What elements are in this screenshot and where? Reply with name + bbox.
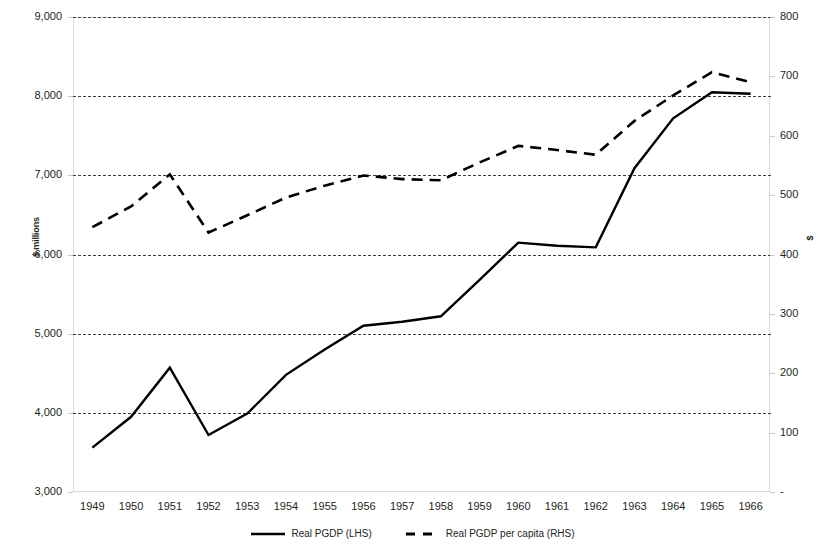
left-axis-tick-mark (68, 492, 73, 493)
x-axis-tick-label: 1953 (227, 500, 267, 512)
x-axis-tick-label: 1951 (150, 500, 190, 512)
left-axis-tick-label: 9,000 (34, 11, 62, 22)
x-axis-tick-label: 1960 (498, 500, 538, 512)
left-axis-title: $ millions (31, 197, 41, 277)
x-axis-tick-label: 1963 (614, 500, 654, 512)
left-axis-tick-label: 3,000 (34, 486, 62, 497)
right-axis-tick-mark (770, 314, 775, 315)
right-axis-tick-mark (770, 433, 775, 434)
right-axis-tick-mark (770, 195, 775, 196)
gridline (73, 413, 771, 414)
gridline (73, 175, 771, 176)
x-axis-tick-label: 1961 (537, 500, 577, 512)
chart-legend: Real PGDP (LHS) Real PGDP per capita (RH… (0, 528, 826, 539)
right-axis-title: $ (805, 198, 815, 278)
gridline (73, 96, 771, 97)
legend-item-real-pgdp[interactable]: Real PGDP (LHS) (251, 528, 371, 539)
right-axis-tick-label: 400 (780, 249, 798, 260)
left-axis-tick-label: 8,000 (34, 90, 62, 101)
left-axis-tick-mark (68, 255, 73, 256)
legend-item-real-pgdp-per-capita[interactable]: Real PGDP per capita (RHS) (406, 528, 575, 539)
x-axis-tick-label: 1959 (460, 500, 500, 512)
right-axis-tick-label: 100 (780, 427, 798, 438)
right-axis-tick-label: 200 (780, 367, 798, 378)
right-axis-tick-mark (770, 255, 775, 256)
right-axis-tick-label: 500 (780, 189, 798, 200)
x-axis-tick-label: 1965 (692, 500, 732, 512)
gridline (73, 255, 771, 256)
x-axis-tick-label: 1957 (382, 500, 422, 512)
left-axis-tick-mark (68, 413, 73, 414)
x-axis-tick-label: 1954 (266, 500, 306, 512)
left-axis-tick-label: 7,000 (34, 169, 62, 180)
x-axis-tick-label: 1949 (72, 500, 112, 512)
x-axis-tick-label: 1952 (189, 500, 229, 512)
x-axis-tick-label: 1950 (111, 500, 151, 512)
right-axis-tick-mark (770, 76, 775, 77)
legend-swatch-solid (251, 529, 285, 539)
right-axis-tick-label: - (780, 486, 784, 497)
x-axis-tick-label: 1956 (343, 500, 383, 512)
left-axis-tick-mark (68, 175, 73, 176)
x-axis-tick-label: 1958 (421, 500, 461, 512)
left-axis-tick-mark (68, 334, 73, 335)
right-axis-tick-mark (770, 17, 775, 18)
x-axis-tick-label: 1962 (576, 500, 616, 512)
left-axis-tick-mark (68, 17, 73, 18)
x-axis-tick-label: 1955 (305, 500, 345, 512)
right-axis-tick-label: 700 (780, 70, 798, 81)
left-axis-tick-label: 4,000 (34, 407, 62, 418)
gridline (73, 334, 771, 335)
right-axis-tick-mark (770, 492, 775, 493)
gridline (73, 17, 771, 18)
right-axis-tick-label: 600 (780, 130, 798, 141)
x-axis-tick-label: 1964 (653, 500, 693, 512)
chart-container: $ millions $ 9,0008,0007,0006,0005,0004,… (0, 0, 826, 552)
right-axis-tick-mark (770, 136, 775, 137)
legend-label-real-pgdp-per-capita: Real PGDP per capita (RHS) (446, 528, 575, 539)
left-axis-tick-label: 6,000 (34, 249, 62, 260)
x-axis-tick-label: 1966 (731, 500, 771, 512)
right-axis-tick-label: 300 (780, 308, 798, 319)
right-axis-tick-mark (770, 373, 775, 374)
left-axis-tick-label: 5,000 (34, 328, 62, 339)
right-axis-tick-label: 800 (780, 11, 798, 22)
legend-label-real-pgdp: Real PGDP (LHS) (291, 528, 371, 539)
legend-swatch-dashed (406, 529, 440, 539)
left-axis-tick-mark (68, 96, 73, 97)
